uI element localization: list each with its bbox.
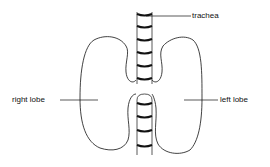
trachea-lower <box>137 94 152 155</box>
thyroid-diagram: trachea right lobe left lobe <box>0 0 270 167</box>
right-lobe-label: right lobe <box>12 96 45 104</box>
left-lobe-label: left lobe <box>220 96 248 104</box>
trachea-upper <box>137 12 152 84</box>
right-lobe-outline <box>80 37 136 150</box>
trachea-label: trachea <box>192 12 219 20</box>
diagram-drawing <box>0 0 270 167</box>
left-lobe-outline <box>152 37 202 153</box>
